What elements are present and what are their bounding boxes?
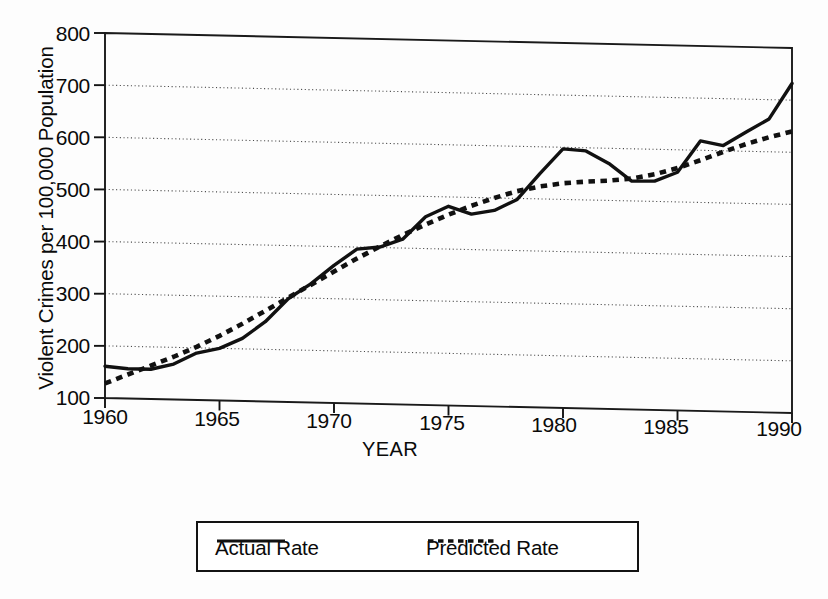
data-series-layer <box>105 83 792 383</box>
legend-solid-line-icon <box>215 534 287 548</box>
chart-figure: Violent Crimes per 100,000 Population 80… <box>0 0 828 599</box>
legend-entry-predicted: Predicted Rate <box>426 534 559 562</box>
legend-dotted-line-icon <box>426 534 498 548</box>
chart-legend: Actual Rate Predicted Rate <box>196 521 639 572</box>
plot-frame <box>105 33 792 413</box>
legend-entry-actual: Actual Rate <box>215 534 319 562</box>
gridlines <box>105 85 792 361</box>
plot-area <box>0 0 828 599</box>
axis-ticks <box>94 33 792 423</box>
